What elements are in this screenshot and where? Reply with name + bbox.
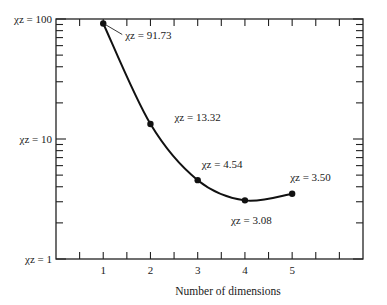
x-tick-label: 5 (289, 264, 295, 276)
data-point (242, 197, 248, 203)
data-point (100, 20, 106, 26)
data-annotation: χz = 4.54 (201, 158, 243, 170)
data-annotation: χz = 91.73 (124, 29, 172, 41)
axis-ticks (56, 19, 363, 259)
plot-frame (56, 19, 363, 259)
data-annotation: χz = 3.08 (230, 214, 272, 226)
x-tick-label: 3 (195, 264, 201, 276)
chart: χz = 1χz = 10χz = 100 12345 χz = 91.73χz… (0, 0, 387, 305)
y-tick-label: χz = 1 (24, 253, 52, 265)
annotations: χz = 91.73χz = 13.32χz = 4.54χz = 3.08χz… (105, 24, 331, 226)
x-tick-label: 1 (100, 264, 106, 276)
x-tick-label: 2 (148, 264, 154, 276)
x-axis-title: Number of dimensions (175, 285, 281, 297)
data-annotation: χz = 3.50 (289, 171, 331, 183)
data-point (289, 191, 295, 197)
data-annotation: χz = 13.32 (173, 111, 220, 123)
y-tick-label: χz = 10 (19, 133, 53, 145)
x-axis-labels: 12345 (100, 264, 295, 276)
y-axis-labels: χz = 1χz = 10χz = 100 (13, 13, 52, 265)
data-point (194, 177, 200, 183)
plot-border (56, 19, 363, 259)
x-tick-label: 4 (242, 264, 248, 276)
y-tick-label: χz = 100 (13, 13, 52, 25)
data-point (147, 121, 153, 127)
